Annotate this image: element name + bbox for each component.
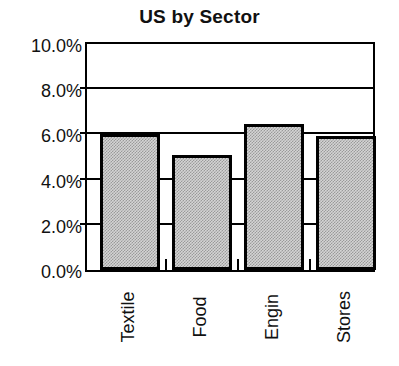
y-tick-label-5: 10.0% — [0, 37, 82, 55]
x-tick-mark-2 — [237, 259, 239, 270]
x-tick-label-textile: Textile — [119, 291, 137, 342]
x-axis: Textile Food Engin Stores — [85, 274, 375, 366]
x-category-food: Food — [170, 274, 230, 366]
x-category-engin: Engin — [242, 274, 302, 366]
y-tick-mark-6pct — [80, 132, 87, 134]
bar-textile[interactable] — [100, 134, 160, 270]
y-tick-mark-8pct — [80, 87, 87, 89]
bar-chart: US by Sector 0.0% 2.0% 4.0% 6.0% 8.0% 10… — [0, 0, 399, 366]
y-tick-mark-4pct — [80, 178, 87, 180]
plot-area — [85, 42, 375, 272]
x-tick-label-stores: Stores — [335, 291, 353, 343]
y-tick-label-4: 8.0% — [0, 82, 82, 100]
y-tick-mark-2pct — [80, 223, 87, 225]
x-category-textile: Textile — [98, 274, 158, 366]
chart-title: US by Sector — [0, 6, 399, 28]
x-tick-label-food: Food — [191, 296, 209, 337]
y-tick-label-3: 6.0% — [0, 127, 82, 145]
y-axis: 0.0% 2.0% 4.0% 6.0% 8.0% 10.0% — [0, 42, 82, 272]
y-tick-label-0: 0.0% — [0, 263, 82, 281]
bar-food[interactable] — [172, 155, 232, 270]
x-tick-label-engin: Engin — [263, 294, 281, 340]
x-category-stores: Stores — [314, 274, 374, 366]
bars-layer — [87, 44, 373, 270]
y-tick-label-1: 2.0% — [0, 218, 82, 236]
bar-engin[interactable] — [244, 124, 304, 270]
x-tick-mark-1 — [165, 259, 167, 270]
bar-stores[interactable] — [316, 136, 376, 271]
x-tick-mark-3 — [309, 259, 311, 270]
y-tick-label-2: 4.0% — [0, 173, 82, 191]
